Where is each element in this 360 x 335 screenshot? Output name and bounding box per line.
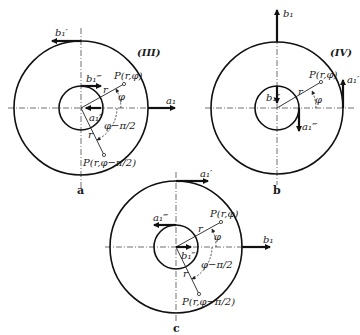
label-p2: P(r,φ−π/2) [82, 157, 136, 168]
case-label: (IV) [330, 47, 352, 58]
label-b1-double: b₁″ [181, 250, 195, 261]
label-a1-triple: a₁‴ [153, 212, 169, 223]
label-b1-triple: b₁‴ [86, 73, 102, 84]
label-p1: P(r,φ) [113, 70, 142, 81]
label-p1: P(r,φ) [308, 69, 337, 80]
figure-b: b₁ a₁′ b₁″ a₁‴ P(r,φ) φ r (IV) b [205, 8, 360, 197]
label-r: r [298, 86, 304, 97]
caption-c: c [173, 322, 180, 335]
label-a1: a₁ [166, 95, 176, 106]
figure-c: a₁′ b₁ a₁‴ b₁″ P(r,φ) P(r,φ−π/2) φ φ−π/2… [105, 168, 273, 335]
label-a1-prime: a₁′ [347, 74, 360, 85]
label-phi: φ [214, 231, 221, 242]
label-b1-prime: b₁′ [55, 27, 68, 38]
label-b1: b₁ [263, 234, 273, 245]
label-a1-double: a₁″ [89, 112, 103, 123]
diagram-canvas: b₁′ a₁ b₁‴ a₁″ P(r,φ) P(r,φ−π/2) φ φ−π/2… [0, 0, 360, 335]
label-a1-triple: a₁‴ [302, 121, 318, 132]
point-p1 [219, 220, 222, 223]
label-phi: φ [315, 94, 322, 105]
caption-b: b [273, 184, 281, 197]
label-phi: φ [118, 91, 125, 102]
label-phi-minus: φ−π/2 [104, 120, 136, 131]
point-p1 [122, 82, 125, 85]
label-r-2: r [183, 268, 189, 279]
label-p2: P(r,φ−π/2) [181, 296, 235, 307]
label-phi-minus: φ−π/2 [201, 259, 233, 270]
case-label: (III) [137, 47, 161, 58]
label-a1-prime: a₁′ [200, 168, 213, 179]
label-r-2: r [88, 129, 94, 140]
figure-a: b₁′ a₁ b₁‴ a₁″ P(r,φ) P(r,φ−π/2) φ φ−π/2… [8, 27, 176, 197]
label-b1-double: b₁″ [266, 92, 280, 103]
label-p1: P(r,φ) [209, 208, 238, 219]
caption-a: a [77, 184, 84, 197]
point-p1 [319, 80, 322, 83]
label-b1: b₁ [283, 8, 293, 19]
